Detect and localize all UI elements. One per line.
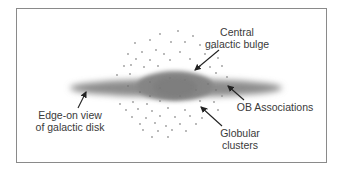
galaxy-illustration [0, 0, 343, 173]
label-line: clusters [215, 139, 265, 151]
arrow-bulge [195, 50, 219, 70]
label-central-bulge: Central galactic bulge [197, 26, 277, 50]
label-line: galactic bulge [197, 38, 277, 50]
label-galactic-disk: Edge-on view of galactic disk [30, 109, 110, 133]
label-globular-clusters: Globular clusters [215, 127, 265, 151]
label-line: of galactic disk [30, 121, 110, 133]
label-line: Globular [215, 127, 265, 139]
arrow-disk [78, 92, 86, 108]
galactic-disk [70, 71, 282, 101]
label-line: Edge-on view [30, 109, 110, 121]
label-line: Central [197, 26, 277, 38]
label-line: OB Associations [232, 101, 318, 113]
label-ob-associations: OB Associations [232, 101, 318, 113]
